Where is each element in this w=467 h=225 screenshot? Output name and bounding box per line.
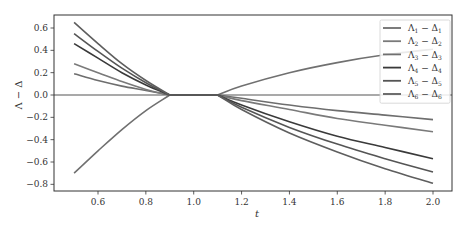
series-line-2: [74, 64, 433, 132]
x-tick-label: 1.2: [234, 197, 248, 207]
legend-label: Λ4 − Δ4: [407, 63, 442, 74]
y-tick-label: −0.6: [26, 157, 48, 167]
y-tick-label: 0.0: [34, 90, 49, 100]
y-tick-label: 0.4: [34, 45, 49, 55]
x-tick-label: 0.8: [139, 197, 154, 207]
y-tick-label: −0.2: [26, 112, 48, 122]
x-tick-label: 0.6: [91, 197, 106, 207]
y-axis-label: Λ − Δ: [13, 80, 24, 110]
y-tick-label: −0.8: [26, 179, 48, 189]
x-tick-label: 1.4: [282, 197, 297, 207]
y-tick-label: −0.4: [26, 135, 48, 145]
legend-label: Λ1 − Δ1: [407, 23, 442, 34]
x-tick-label: 1.0: [187, 197, 202, 207]
legend-label: Λ3 − Δ3: [407, 50, 442, 61]
y-tick-label: 0.6: [34, 23, 49, 33]
series-line-4: [74, 44, 433, 159]
x-axis: 0.60.81.01.21.41.61.82.0: [91, 191, 441, 207]
legend-label: Λ5 − Δ5: [407, 76, 442, 87]
x-tick-label: 1.8: [378, 197, 393, 207]
line-chart: 0.60.81.01.21.41.61.82.0 −0.8−0.6−0.4−0.…: [0, 0, 467, 225]
series-layer: [74, 22, 433, 183]
y-tick-label: 0.2: [34, 68, 48, 78]
x-tick-label: 2.0: [426, 197, 441, 207]
y-axis: −0.8−0.6−0.4−0.20.00.20.40.6: [26, 23, 54, 189]
legend: Λ1 − Δ1Λ2 − Δ2Λ3 − Δ3Λ4 − Δ4Λ5 − Δ5Λ6 − …: [380, 20, 450, 103]
x-tick-label: 1.6: [330, 197, 345, 207]
x-axis-label: t: [255, 208, 260, 219]
legend-label: Λ2 − Δ2: [407, 36, 442, 47]
legend-label: Λ6 − Δ6: [407, 89, 442, 100]
